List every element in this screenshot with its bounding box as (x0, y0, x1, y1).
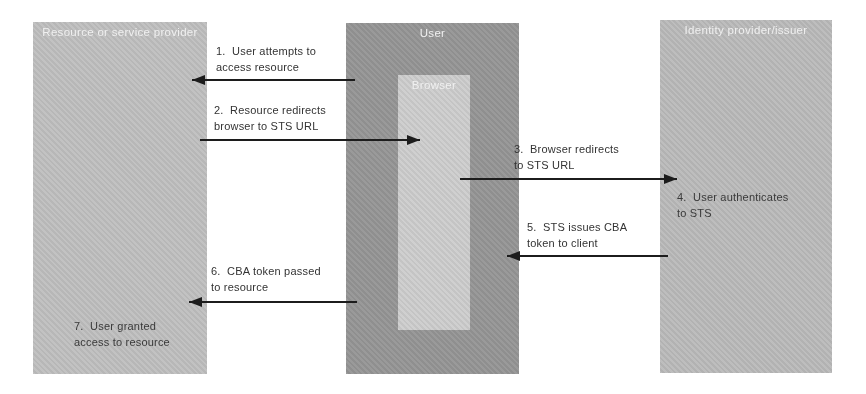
step6-label-line1: 6. CBA token passed (211, 264, 321, 280)
provider-box-title: Resource or service provider (33, 22, 207, 38)
step3-label-line2: to STS URL (514, 158, 619, 174)
step5-label-line2: token to client (527, 236, 627, 252)
step5-arrow-left-icon (507, 255, 668, 257)
step2-label-line1: 2. Resource redirects (214, 103, 326, 119)
step4-note-line2: to STS (677, 206, 788, 222)
step7-note: 7. User granted access to resource (74, 319, 170, 350)
step3-label: 3. Browser redirects to STS URL (514, 142, 619, 173)
step1-label: 1. User attempts to access resource (216, 44, 316, 75)
browser-box: Browser (398, 75, 470, 330)
step6-arrow-left-icon (189, 301, 357, 303)
step6-label: 6. CBA token passed to resource (211, 264, 321, 295)
user-box-title: User (346, 23, 519, 39)
step5-label-line1: 5. STS issues CBA (527, 220, 627, 236)
step4-note-line1: 4. User authenticates (677, 190, 788, 206)
step6-label-line2: to resource (211, 280, 321, 296)
cba-auth-flow-diagram: Resource or service provider 7. User gra… (0, 0, 866, 394)
step7-note-line1: 7. User granted (74, 319, 170, 335)
step1-arrow-left-icon (192, 79, 355, 81)
step5-label: 5. STS issues CBA token to client (527, 220, 627, 251)
step3-arrow-right-icon (460, 178, 677, 180)
step4-note: 4. User authenticates to STS (677, 190, 788, 221)
step1-label-line1: 1. User attempts to (216, 44, 316, 60)
step3-label-line1: 3. Browser redirects (514, 142, 619, 158)
step2-label-line2: browser to STS URL (214, 119, 326, 135)
step2-arrow-right-icon (200, 139, 420, 141)
step7-note-line2: access to resource (74, 335, 170, 351)
browser-box-title: Browser (398, 75, 470, 91)
step2-label: 2. Resource redirects browser to STS URL (214, 103, 326, 134)
step1-label-line2: access resource (216, 60, 316, 76)
idp-box-title: Identity provider/issuer (660, 20, 832, 36)
